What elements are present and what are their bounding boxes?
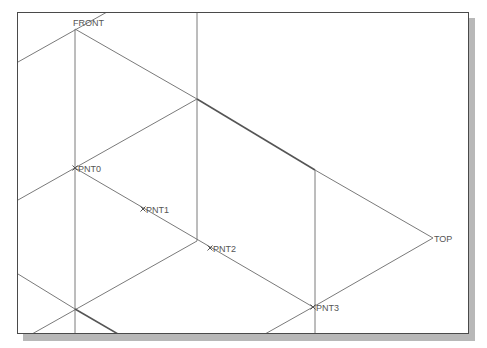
datum-line[interactable] (75, 309, 118, 334)
datum-point-label: PNT2 (213, 244, 236, 254)
datum-plane-labels: FRONTTOP (73, 18, 452, 244)
datum-line[interactable] (313, 238, 433, 307)
datum-line[interactable] (197, 99, 315, 170)
datum-plane-label-front[interactable]: FRONT (73, 18, 104, 28)
datum-line[interactable] (75, 168, 313, 307)
datum-plane-label-top[interactable]: TOP (434, 234, 452, 244)
datum-line[interactable] (18, 99, 197, 200)
datum-line[interactable] (265, 307, 313, 334)
datum-point-label: PNT1 (146, 205, 169, 215)
datum-line[interactable] (75, 29, 197, 99)
datum-point-label: PNT0 (78, 164, 101, 174)
datum-line[interactable] (315, 170, 433, 238)
datum-points: PNT0PNT1PNT2PNT3 (73, 164, 340, 313)
datum-point-label: PNT3 (316, 303, 339, 313)
model-scene[interactable]: PNT0PNT1PNT2PNT3 FRONTTOP (0, 0, 487, 348)
datum-line[interactable] (32, 241, 197, 334)
datum-point-pnt2[interactable]: PNT2 (208, 244, 237, 254)
datum-line[interactable] (18, 274, 75, 309)
datum-point-pnt1[interactable]: PNT1 (141, 205, 170, 215)
